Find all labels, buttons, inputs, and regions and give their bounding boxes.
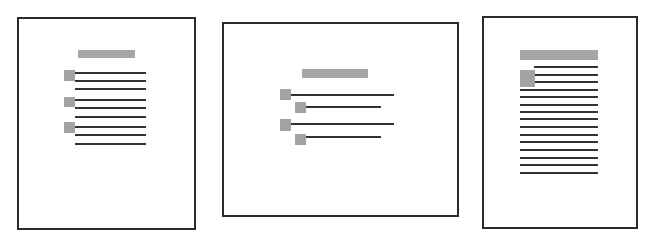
text-line bbox=[75, 88, 146, 90]
text-line bbox=[75, 72, 146, 74]
text-line bbox=[75, 143, 146, 145]
portrait-page-bulleted-list-frame bbox=[17, 17, 196, 230]
text-line bbox=[520, 89, 598, 91]
text-line bbox=[520, 157, 598, 159]
text-line bbox=[75, 107, 146, 109]
bullet-image-placeholder bbox=[295, 134, 306, 145]
text-line bbox=[520, 149, 598, 151]
bullet-image-placeholder bbox=[280, 89, 291, 100]
text-line bbox=[520, 126, 598, 128]
text-line bbox=[520, 164, 598, 166]
text-line bbox=[520, 104, 598, 106]
text-line bbox=[75, 99, 146, 101]
text-line bbox=[520, 172, 598, 174]
text-line bbox=[534, 66, 598, 68]
text-line bbox=[520, 111, 598, 113]
text-line bbox=[306, 106, 381, 108]
title-placeholder bbox=[520, 50, 598, 60]
bullet-image-placeholder bbox=[64, 122, 75, 133]
text-line bbox=[75, 116, 146, 118]
text-line bbox=[75, 126, 146, 128]
text-line bbox=[291, 123, 394, 125]
title-placeholder bbox=[302, 69, 368, 78]
bullet-image-placeholder bbox=[295, 102, 306, 113]
bullet-image-placeholder bbox=[64, 97, 75, 107]
text-line bbox=[520, 118, 598, 120]
text-line bbox=[520, 96, 598, 98]
text-line bbox=[75, 134, 146, 136]
text-line bbox=[520, 134, 598, 136]
text-line bbox=[291, 94, 394, 96]
title-placeholder bbox=[78, 50, 135, 58]
text-line bbox=[534, 74, 598, 76]
text-line bbox=[520, 141, 598, 143]
text-line bbox=[306, 136, 381, 138]
text-line bbox=[534, 81, 598, 83]
landscape-page-nested-list-frame bbox=[222, 22, 459, 217]
bullet-image-placeholder bbox=[280, 119, 291, 131]
bullet-image-placeholder bbox=[520, 70, 535, 87]
text-line bbox=[75, 80, 146, 82]
portrait-page-text-with-image-frame bbox=[482, 16, 638, 229]
bullet-image-placeholder bbox=[64, 70, 75, 81]
